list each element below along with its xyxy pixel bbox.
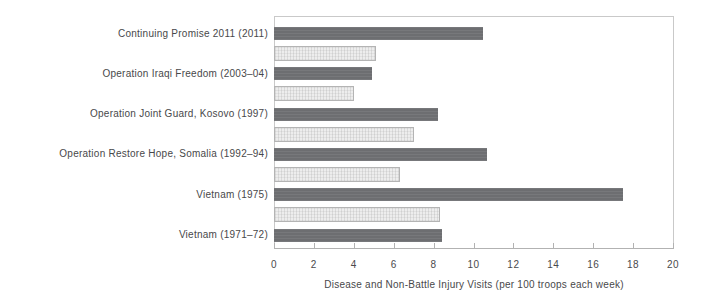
category-label: Continuing Promise 2011 (2011) (118, 28, 268, 40)
x-axis-tick-label: 12 (507, 259, 519, 270)
bar-secondary (274, 207, 440, 222)
x-axis-tick-label: 0 (271, 259, 277, 270)
category-label: Vietnam (1971–72) (179, 229, 268, 241)
x-axis-tick-label: 18 (627, 259, 639, 270)
bar-secondary (274, 86, 354, 101)
x-axis-tick (354, 243, 355, 249)
x-axis-tick-label: 10 (467, 259, 479, 270)
x-axis-tick-label: 14 (547, 259, 559, 270)
bar-primary (274, 188, 623, 201)
bar-primary (274, 229, 442, 242)
x-axis-tick (553, 243, 554, 249)
x-axis-tick (274, 243, 275, 249)
bar-primary (274, 67, 372, 80)
x-axis-tick (394, 243, 395, 249)
category-label: Vietnam (1975) (196, 189, 268, 201)
category-label: Operation Restore Hope, Somalia (1992–94… (59, 148, 268, 160)
x-axis-tick-label: 6 (391, 259, 397, 270)
x-axis-tick (513, 243, 514, 249)
bar-primary (274, 27, 483, 40)
x-axis-tick (593, 243, 594, 249)
x-axis-tick-label: 4 (351, 259, 357, 270)
x-axis-tick-label: 20 (667, 259, 679, 270)
category-label: Operation Iraqi Freedom (2003–04) (102, 68, 268, 80)
bar-secondary (274, 127, 414, 142)
x-axis-tick (474, 243, 475, 249)
x-axis-title: Disease and Non-Battle Injury Visits (pe… (274, 279, 674, 290)
x-axis-tick (434, 243, 435, 249)
x-axis-tick (633, 243, 634, 249)
bar-primary (274, 108, 438, 121)
bar-secondary (274, 46, 376, 61)
bar-primary (274, 148, 487, 161)
x-axis-tick (314, 243, 315, 249)
x-axis-tick (673, 243, 674, 249)
bar-secondary (274, 167, 400, 182)
x-axis-tick-label: 8 (431, 259, 437, 270)
dnbi-rates-bar-chart: Continuing Promise 2011 (2011)Operation … (0, 0, 717, 305)
category-label: Operation Joint Guard, Kosovo (1997) (90, 108, 268, 120)
x-axis-tick-label: 16 (587, 259, 599, 270)
x-axis-tick-label: 2 (311, 259, 317, 270)
